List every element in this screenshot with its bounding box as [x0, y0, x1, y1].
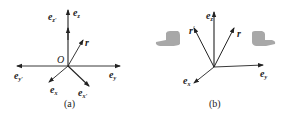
panel-b: ez r' r ey ex (b) [156, 10, 275, 110]
vector-r-prime [194, 28, 214, 67]
caption-b: (b) [209, 98, 221, 110]
label-ey: ey [109, 69, 116, 81]
caption-a: (a) [64, 98, 75, 110]
label-ex-prime: ex' [78, 87, 87, 99]
label-ex: ex [183, 75, 190, 87]
origin-label: O [57, 54, 64, 65]
label-r: r [85, 37, 89, 48]
axis-ex-prime [68, 66, 89, 86]
vector-r [68, 40, 83, 66]
figure: ez' ez r O ey' ey ex ex' (a) ez r' r ey … [0, 0, 291, 119]
label-ey: ey [260, 68, 267, 80]
left-hand-thumb-icon [156, 31, 180, 46]
label-r: r [237, 28, 241, 39]
label-ez-prime: ez' [48, 11, 57, 23]
panel-a: ez' ez r O ey' ey ex ex' (a) [14, 7, 120, 110]
axis-ey [214, 65, 263, 67]
vector-r [214, 28, 234, 67]
right-hand-thumb-icon [252, 31, 275, 46]
axis-ex [49, 66, 68, 82]
label-ez: ez [206, 10, 213, 22]
label-r-prime: r' [189, 25, 195, 36]
label-ez: ez [73, 7, 80, 19]
label-ey-prime: ey' [14, 70, 23, 82]
label-ex: ex [50, 84, 57, 96]
axis-ex [194, 67, 214, 83]
